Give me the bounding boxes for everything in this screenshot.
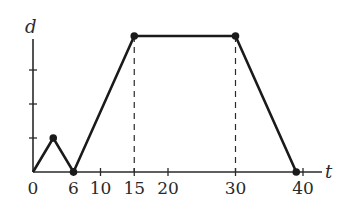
x-tick-labels: 061015203040 [28, 178, 314, 198]
axes [29, 39, 322, 176]
x-tick-label: 15 [123, 178, 145, 198]
data-point-marker [130, 32, 138, 40]
data-point-marker [232, 32, 240, 40]
x-axis-label: t [325, 161, 333, 182]
x-tick-label: 40 [292, 178, 314, 198]
x-tick-label: 6 [68, 178, 79, 198]
data-series [33, 36, 296, 172]
distance-line [33, 36, 296, 172]
data-point-marker [49, 134, 57, 142]
dashed-guides [134, 36, 235, 172]
x-tick-label: 30 [225, 178, 247, 198]
distance-time-chart: 061015203040 t d [0, 0, 353, 201]
data-point-marker [292, 168, 300, 176]
x-tick-label: 20 [157, 178, 179, 198]
data-point-marker [70, 168, 78, 176]
x-tick-label: 0 [28, 178, 39, 198]
y-axis-label: d [25, 16, 37, 37]
data-points [49, 32, 300, 176]
x-tick-label: 10 [90, 178, 112, 198]
